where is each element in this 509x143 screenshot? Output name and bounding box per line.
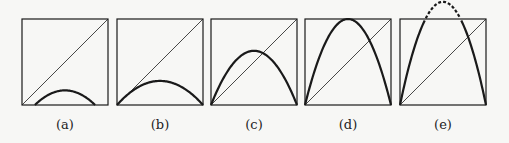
diagonal-line <box>211 19 297 105</box>
panel-c <box>211 19 297 105</box>
diagonal-line <box>400 19 486 105</box>
parabola-curve <box>461 20 486 105</box>
parabola-curve <box>211 51 297 105</box>
panel-label-e: (e) <box>400 117 486 132</box>
panel-label-c: (c) <box>211 117 297 132</box>
panel-d <box>305 19 391 105</box>
parabola-curve <box>35 90 95 105</box>
panel-label-d: (d) <box>305 117 391 132</box>
diagonal-line <box>22 19 108 105</box>
parabola-overflow-dashed <box>426 2 460 19</box>
panel-a <box>22 19 108 105</box>
panel-label-a: (a) <box>22 117 108 132</box>
panel-e <box>400 2 486 105</box>
panel-label-b: (b) <box>117 117 203 132</box>
parabola-curve <box>117 81 203 105</box>
panel-b <box>117 19 203 105</box>
